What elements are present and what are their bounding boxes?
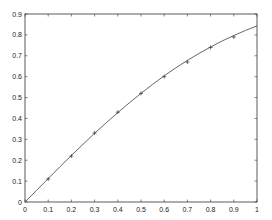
y-tick-label: 0.2 (12, 157, 22, 164)
chart-plot-area: 00.10.20.30.40.50.60.70.80.9100.10.20.30… (0, 0, 272, 220)
x-tick-label: 0.7 (183, 206, 193, 213)
y-tick-label: 0.1 (12, 178, 22, 185)
y-tick-label: 0.9 (12, 11, 22, 18)
y-tick-label: 0.3 (12, 136, 22, 143)
x-tick-label: 0.5 (136, 206, 146, 213)
x-tick-label: 1 (255, 206, 259, 213)
data-line (25, 26, 257, 202)
axes-box (25, 14, 257, 202)
x-tick-label: 0.3 (90, 206, 100, 213)
x-tick-label: 0.8 (206, 206, 216, 213)
y-tick-label: 0.7 (12, 52, 22, 59)
x-tick-label: 0.6 (159, 206, 169, 213)
x-tick-label: 0.1 (43, 206, 53, 213)
y-tick-label: 0 (18, 199, 22, 206)
y-tick-label: 0.6 (12, 73, 22, 80)
y-tick-label: 0.4 (12, 115, 22, 122)
y-tick-label: 0.8 (12, 31, 22, 38)
x-tick-label: 0.2 (67, 206, 77, 213)
line-chart: 00.10.20.30.40.50.60.70.80.9100.10.20.30… (0, 0, 272, 220)
x-tick-label: 0.4 (113, 206, 123, 213)
x-tick-label: 0 (23, 206, 27, 213)
y-tick-label: 0.5 (12, 94, 22, 101)
x-tick-label: 0.9 (229, 206, 239, 213)
